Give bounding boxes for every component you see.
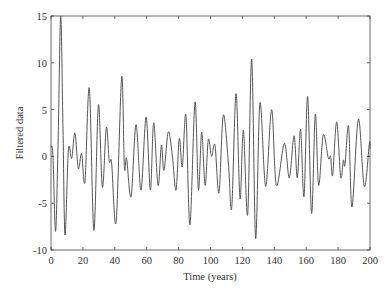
y-tick-label: 0 [42,151,47,162]
x-tick-label: 0 [48,255,53,266]
x-tick-label: 120 [235,255,251,266]
x-tick-label: 20 [78,255,89,266]
y-axis-label: Filtered data [14,106,25,159]
x-tick-label: 160 [298,255,314,266]
y-tick-label: -5 [38,198,47,209]
x-tick-label: 80 [173,255,184,266]
x-axis: 020406080100120140160180200 [48,16,378,266]
y-tick-label: -10 [33,245,47,256]
line-chart: 020406080100120140160180200 -10-5051015 … [0,0,388,294]
y-tick-label: 10 [37,58,48,69]
x-axis-label: Time (years) [183,271,237,283]
x-tick-label: 40 [110,255,121,266]
x-tick-label: 100 [203,255,219,266]
x-tick-label: 140 [266,255,282,266]
y-tick-label: 5 [42,105,47,116]
x-tick-label: 200 [362,255,378,266]
x-tick-label: 180 [330,255,346,266]
series-line-filtered-data [51,16,370,239]
y-tick-label: 15 [37,11,48,22]
axes-frame [51,16,370,250]
x-tick-label: 60 [141,255,152,266]
